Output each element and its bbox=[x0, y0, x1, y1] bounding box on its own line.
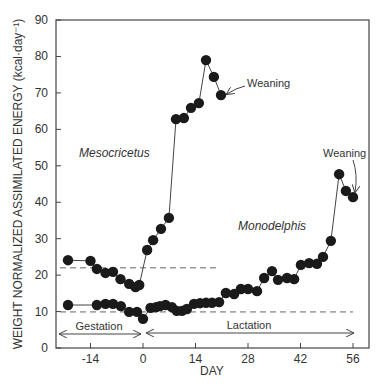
x-axis-title: DAY bbox=[200, 364, 224, 378]
series-line-monodelphis bbox=[68, 174, 353, 319]
data-point bbox=[273, 275, 283, 285]
energy-chart: 0102030405060708090-14014284256 DAY WEIG… bbox=[0, 0, 381, 388]
x-tick-label: 0 bbox=[140, 352, 147, 366]
data-point bbox=[326, 236, 336, 246]
y-tick-label: 70 bbox=[35, 86, 49, 100]
data-point bbox=[214, 297, 224, 307]
data-point bbox=[216, 90, 226, 100]
data-point bbox=[252, 286, 262, 296]
data-point bbox=[179, 113, 189, 123]
data-series bbox=[63, 55, 358, 324]
axes: 0102030405060708090-14014284256 bbox=[35, 13, 369, 366]
y-tick-label: 50 bbox=[35, 159, 49, 173]
data-point bbox=[334, 169, 344, 179]
data-point bbox=[108, 267, 118, 277]
x-tick-label: -14 bbox=[82, 352, 100, 366]
x-tick-label: 42 bbox=[294, 352, 308, 366]
x-tick-label: 56 bbox=[346, 352, 360, 366]
data-point bbox=[138, 314, 148, 324]
data-point bbox=[142, 245, 152, 255]
y-tick-label: 0 bbox=[41, 341, 48, 355]
y-tick-label: 60 bbox=[35, 122, 49, 136]
data-point bbox=[201, 55, 211, 65]
data-point bbox=[194, 98, 204, 108]
data-point bbox=[63, 255, 73, 265]
data-point bbox=[259, 273, 269, 283]
data-point bbox=[209, 72, 219, 82]
y-tick-label: 20 bbox=[35, 268, 49, 282]
y-tick-label: 90 bbox=[35, 13, 49, 27]
weaning-arrow-monodelphis bbox=[353, 160, 356, 192]
gestation-label: Gestation bbox=[75, 320, 122, 332]
data-point bbox=[156, 224, 166, 234]
y-tick-label: 30 bbox=[35, 232, 49, 246]
lactation-label: Lactation bbox=[227, 319, 272, 331]
y-tick-label: 80 bbox=[35, 49, 49, 63]
x-tick-label: 28 bbox=[241, 352, 255, 366]
y-axis-title: WEIGHT NORMALIZED ASSIMILATED ENERGY (kc… bbox=[11, 19, 25, 350]
data-point bbox=[63, 300, 73, 310]
annotations bbox=[59, 86, 356, 334]
data-point bbox=[164, 213, 174, 223]
weaning-label-mesocricetus: Weaning bbox=[247, 77, 290, 89]
weaning-label-monodelphis: Weaning bbox=[323, 147, 366, 159]
data-point bbox=[134, 280, 144, 290]
y-tick-label: 10 bbox=[35, 305, 49, 319]
data-point bbox=[267, 266, 277, 276]
data-point bbox=[148, 235, 158, 245]
data-point bbox=[348, 192, 358, 202]
series-label-mesocricetus: Mesocricetus bbox=[79, 146, 150, 160]
data-point bbox=[289, 274, 299, 284]
data-point bbox=[243, 284, 253, 294]
series-label-monodelphis: Monodelphis bbox=[238, 219, 306, 233]
data-point bbox=[318, 252, 328, 262]
y-tick-label: 40 bbox=[35, 195, 49, 209]
weaning-arrow-mesocricetus bbox=[227, 86, 245, 94]
